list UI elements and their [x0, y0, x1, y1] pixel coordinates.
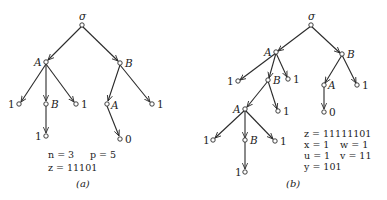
tree-node — [322, 83, 326, 87]
tree-node — [118, 137, 122, 141]
node-label: 1 — [235, 166, 242, 178]
tree-node — [236, 79, 240, 83]
node-label: 1 — [362, 79, 369, 91]
node-label: 0 — [125, 133, 132, 145]
tree-node — [44, 60, 48, 64]
node-label: 1 — [35, 130, 42, 142]
tree-node — [80, 23, 84, 27]
tree-node — [74, 102, 78, 106]
tree-node — [17, 102, 21, 106]
tree-node — [211, 138, 215, 142]
tree-node — [274, 50, 278, 54]
edge — [108, 65, 120, 101]
edge — [311, 26, 340, 53]
node-label: B — [249, 134, 258, 146]
equation-v: v = 11 — [339, 150, 371, 161]
tree-node — [118, 61, 122, 65]
tree-node — [243, 170, 247, 174]
node-label: B — [272, 74, 281, 86]
equation-y: y = 101 — [303, 161, 342, 172]
tree-node — [309, 23, 313, 27]
node-label-root: σ — [79, 10, 87, 22]
edge — [46, 64, 74, 102]
derivation-trees-figure: σ A B 1 B 1 1 A 1 0 n = 3 p = 5 z = 1110… — [0, 0, 387, 200]
edge — [247, 81, 268, 107]
tree-node — [273, 139, 277, 143]
tree-node — [322, 110, 326, 114]
edge — [82, 26, 118, 61]
equation-z: z = 11101 — [48, 162, 97, 173]
node-label: A — [232, 103, 241, 115]
edge — [120, 65, 150, 102]
node-label: 1 — [227, 75, 234, 87]
tree-node — [105, 102, 109, 106]
tree-a: σ A B 1 B 1 1 A 1 0 n = 3 p = 5 z = 1110… — [8, 10, 164, 189]
tree-node — [150, 102, 154, 106]
caption-b: (b) — [286, 178, 300, 189]
tree-node — [286, 77, 290, 81]
tree-node — [340, 52, 344, 56]
equation-z: z = 11111101 — [304, 128, 371, 139]
tree-node — [276, 109, 280, 113]
tree-node — [44, 102, 48, 106]
node-label: A — [327, 79, 336, 91]
node-label: 1 — [280, 135, 287, 147]
node-label-root: σ — [308, 10, 316, 22]
tree-node — [243, 138, 247, 142]
node-label: A — [33, 56, 42, 68]
node-label: B — [124, 57, 133, 69]
node-label: 1 — [157, 98, 164, 110]
tree-b: σ A B 1 B 1 A 1 1 B 1 1 A 1 0 z = 111111… — [203, 10, 371, 189]
node-label: 1 — [8, 98, 15, 110]
node-label: A — [263, 46, 272, 58]
equation-x: x = 1 — [304, 139, 329, 150]
node-label: 1 — [81, 98, 88, 110]
tree-node — [243, 107, 247, 111]
equation-n: n = 3 — [48, 149, 74, 160]
equation-u: u = 1 — [304, 150, 330, 161]
caption-a: (a) — [76, 178, 90, 189]
edge — [278, 26, 311, 51]
equation-p: p = 5 — [90, 149, 116, 160]
node-label: A — [110, 99, 119, 111]
node-label: 1 — [203, 134, 210, 146]
edge — [48, 26, 82, 60]
node-label: 0 — [329, 106, 336, 118]
node-label: 1 — [283, 105, 290, 117]
equation-w: w = 1 — [340, 139, 368, 150]
node-label: B — [50, 98, 59, 110]
tree-node — [355, 83, 359, 87]
tree-node — [266, 78, 270, 82]
node-label: B — [346, 48, 355, 60]
edge — [21, 64, 46, 102]
tree-node — [44, 134, 48, 138]
node-label: 1 — [293, 73, 300, 85]
